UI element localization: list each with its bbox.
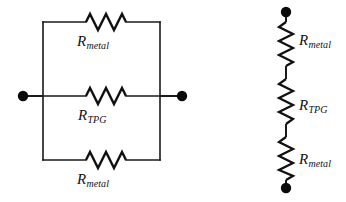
middle-resistor-zigzag — [86, 88, 126, 104]
series-resistor-1-label-subscript: metal — [308, 39, 331, 50]
top-resistor-label-subscript: metal — [86, 40, 109, 51]
circuit-diagram-canvas: Rmetal RTPG Rmetal Rmetal RTPG Rmetal — [0, 0, 346, 202]
bottom-resistor-zigzag — [86, 152, 126, 168]
series-top-terminal-node — [281, 7, 291, 17]
series-resistor-1-label: Rmetal — [299, 33, 331, 48]
series-resistor-2-label: RTPG — [299, 98, 328, 113]
bottom-resistor-label: Rmetal — [77, 172, 109, 187]
middle-resistor-label-base: R — [78, 107, 87, 123]
middle-resistor-label: RTPG — [78, 108, 107, 123]
series-resistor-2-label-subscript: TPG — [308, 104, 327, 115]
series-resistor-1-zigzag — [279, 22, 293, 66]
circuit-diagram-svg — [0, 0, 346, 202]
series-resistor-2-label-base: R — [299, 97, 308, 113]
left-terminal-node — [18, 91, 28, 101]
series-resistor-2-zigzag — [279, 79, 293, 124]
bottom-resistor-label-base: R — [77, 171, 86, 187]
bottom-resistor-label-subscript: metal — [86, 178, 109, 189]
series-resistor-1-label-base: R — [299, 32, 308, 48]
right-terminal-node — [177, 91, 187, 101]
top-resistor-label: Rmetal — [77, 34, 109, 49]
series-resistor-3-label-subscript: metal — [308, 158, 331, 169]
top-resistor-label-base: R — [77, 33, 86, 49]
series-bottom-terminal-node — [281, 183, 291, 193]
series-resistor-3-label: Rmetal — [299, 152, 331, 167]
middle-resistor-label-subscript: TPG — [87, 114, 106, 125]
top-resistor-zigzag — [86, 14, 126, 30]
series-resistor-3-zigzag — [279, 137, 293, 180]
series-resistor-3-label-base: R — [299, 151, 308, 167]
series-resistor-chain — [279, 7, 293, 193]
